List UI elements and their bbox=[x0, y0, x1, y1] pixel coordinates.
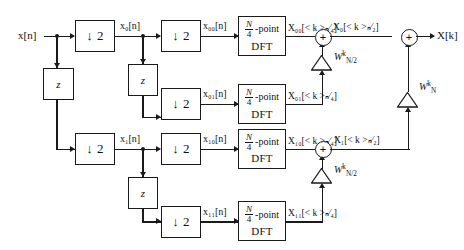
dft-00-line1: N 4 -point bbox=[242, 20, 282, 39]
wire-delay1-down bbox=[56, 100, 57, 150]
ds-stage1-bottom-label: ↓ 2 bbox=[86, 141, 104, 157]
twiddle-final[interactable] bbox=[396, 91, 419, 108]
label-X0: X₀[< k >ₙ⁄₂] bbox=[333, 21, 379, 32]
dft-01-line2: DFT bbox=[242, 109, 282, 121]
arrow-output bbox=[430, 33, 435, 39]
wire-x11 bbox=[201, 221, 238, 222]
twiddle-bottom-label: WkN/2 bbox=[334, 163, 357, 178]
wire-twiddle-final-out bbox=[408, 44, 409, 92]
dft-11-fraction: N 4 bbox=[245, 205, 253, 224]
adder-top-label: + bbox=[320, 32, 326, 43]
ds-stage2-top-0-label: ↓ 2 bbox=[172, 28, 190, 44]
ds-stage2-top-0[interactable]: ↓ 2 bbox=[161, 20, 201, 52]
dft-11[interactable]: N 4 -point DFT bbox=[238, 201, 286, 241]
ds-stage2-bottom-0[interactable]: ↓ 2 bbox=[161, 133, 201, 165]
wire-x00 bbox=[201, 36, 238, 37]
dft-10-fraction: N 4 bbox=[245, 133, 253, 152]
dft-10-line2: DFT bbox=[242, 153, 282, 165]
dft-01-denominator: 4 bbox=[246, 98, 253, 107]
wire-x10 bbox=[201, 149, 238, 150]
label-X1: X₁[< k >ₙ⁄₂] bbox=[334, 134, 380, 145]
ds-stage1-top-label: ↓ 2 bbox=[86, 28, 104, 44]
wire-x1 bbox=[115, 149, 160, 150]
dft-01[interactable]: N 4 -point DFT bbox=[238, 84, 286, 124]
label-x00: x₀₀[n] bbox=[203, 20, 227, 31]
dft-11-suffix: -point bbox=[255, 210, 279, 221]
label-x0: x₀[n] bbox=[120, 20, 140, 31]
dft-01-line1: N 4 -point bbox=[242, 88, 282, 107]
dft-00[interactable]: N 4 -point DFT bbox=[238, 16, 286, 56]
dft-10-line1: N 4 -point bbox=[242, 133, 282, 152]
dft-11-line2: DFT bbox=[242, 226, 282, 238]
wire-X1 bbox=[330, 149, 410, 150]
dft-01-fraction: N 4 bbox=[245, 88, 253, 107]
wire-X10 bbox=[286, 149, 315, 150]
ds-stage1-top[interactable]: ↓ 2 bbox=[75, 20, 115, 52]
dft-00-suffix: -point bbox=[255, 24, 279, 35]
label-X11: X₁₁[< k >ₙ⁄₄] bbox=[288, 207, 337, 218]
twiddle-final-label: WkN bbox=[419, 80, 436, 95]
delay-stage2-bottom[interactable]: z bbox=[128, 177, 158, 209]
dft-10[interactable]: N 4 -point DFT bbox=[238, 129, 286, 169]
delay-stage2-bottom-label: z bbox=[141, 187, 145, 199]
ds-stage2-top-1-label: ↓ 2 bbox=[172, 96, 190, 112]
dft-11-denominator: 4 bbox=[246, 215, 253, 224]
label-x11: x₁₁[n] bbox=[203, 206, 227, 217]
delay-stage1-label: z bbox=[56, 78, 60, 90]
twiddle-top-sub: N/2 bbox=[346, 57, 357, 65]
ds-stage2-bottom-1[interactable]: ↓ 2 bbox=[161, 206, 201, 238]
input-label: x[n] bbox=[18, 29, 36, 41]
label-x10: x₁₀[n] bbox=[203, 133, 227, 144]
dft-00-line2: DFT bbox=[242, 41, 282, 53]
dft-10-denominator: 4 bbox=[246, 143, 253, 152]
adder-bottom-label: + bbox=[320, 144, 326, 155]
wire-X11 bbox=[286, 221, 323, 222]
label-X01: X₀₁[< k >ₙ⁄₄] bbox=[288, 90, 337, 101]
output-label: X[k] bbox=[437, 29, 458, 41]
delay-stage2-top[interactable]: z bbox=[128, 64, 158, 96]
wire-X01 bbox=[286, 104, 323, 105]
wire-delay2top-down bbox=[142, 96, 143, 118]
dft-10-suffix: -point bbox=[255, 137, 279, 148]
label-x01: x₀₁[n] bbox=[203, 88, 227, 99]
twiddle-bottom-sub: N/2 bbox=[346, 170, 357, 178]
wire-X1-up bbox=[408, 112, 409, 149]
twiddle-top-label: WkN/2 bbox=[334, 50, 357, 65]
dft-00-fraction: N 4 bbox=[245, 20, 253, 39]
wire-x0 bbox=[115, 36, 160, 37]
delay-stage2-top-label: z bbox=[141, 74, 145, 86]
adder-final-label: + bbox=[406, 32, 412, 43]
ds-stage2-bottom-0-label: ↓ 2 bbox=[172, 141, 190, 157]
ds-stage2-bottom-1-label: ↓ 2 bbox=[172, 214, 190, 230]
ds-stage2-top-1[interactable]: ↓ 2 bbox=[161, 88, 201, 120]
dft-11-line1: N 4 -point bbox=[242, 205, 282, 224]
wire-X00 bbox=[286, 36, 315, 37]
label-x1: x₁[n] bbox=[120, 133, 140, 144]
twiddle-final-sub: N bbox=[431, 87, 436, 95]
delay-stage1[interactable]: z bbox=[43, 68, 74, 100]
dft-00-denominator: 4 bbox=[246, 30, 253, 39]
wire-X01-up bbox=[322, 75, 323, 104]
wire-X11-up bbox=[322, 188, 323, 221]
wire-X0 bbox=[330, 36, 392, 37]
ds-stage1-bottom[interactable]: ↓ 2 bbox=[75, 133, 115, 165]
wire-x01 bbox=[201, 104, 238, 105]
twiddle-bottom[interactable] bbox=[310, 167, 333, 184]
fft-signal-flow-diagram: x[n] ↓ 2 x₀[n] z ↓ 2 x₀₀[n] z ↓ 2 x₀₁[n] bbox=[0, 0, 464, 250]
twiddle-top[interactable] bbox=[310, 54, 333, 71]
dft-01-suffix: -point bbox=[255, 92, 279, 103]
